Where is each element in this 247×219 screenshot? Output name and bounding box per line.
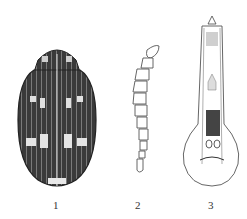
panel-label-3: 3	[208, 199, 214, 211]
panel-label-2: 2	[135, 199, 141, 211]
aedeagus-illustration	[180, 14, 246, 190]
beetle-drawing	[14, 40, 100, 190]
panel-label-1: 1	[53, 199, 59, 211]
beetle-illustration	[14, 40, 100, 190]
antenna-illustration	[125, 42, 165, 178]
antenna-drawing	[125, 42, 165, 178]
aedeagus-drawing	[180, 14, 246, 190]
